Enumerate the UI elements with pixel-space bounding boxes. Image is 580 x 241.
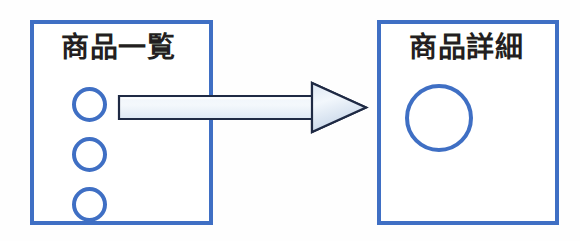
- list-item-circle[interactable]: [72, 87, 107, 122]
- list-item-circle[interactable]: [72, 187, 107, 222]
- diagram-canvas: 商品一覧 商品詳細: [0, 0, 580, 241]
- screen-box-product-detail[interactable]: 商品詳細: [377, 20, 559, 225]
- list-item-circle[interactable]: [72, 137, 107, 172]
- arrow-head: [312, 83, 366, 132]
- box-title-product-detail: 商品詳細: [409, 33, 523, 63]
- screen-box-product-list[interactable]: 商品一覧: [30, 20, 213, 225]
- box-title-product-list: 商品一覧: [61, 33, 175, 63]
- detail-item-circle[interactable]: [405, 84, 473, 152]
